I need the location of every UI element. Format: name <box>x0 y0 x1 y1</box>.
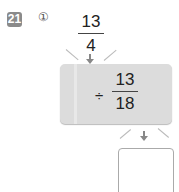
division-operator: ÷ <box>95 87 103 104</box>
operand-fraction: 13 18 <box>112 70 138 113</box>
decor-ray <box>104 50 117 61</box>
input-denominator: 4 <box>86 36 95 55</box>
decor-ray <box>120 129 131 139</box>
fraction-bar <box>78 33 104 34</box>
input-numerator: 13 <box>82 12 101 31</box>
decor-ray <box>66 49 79 60</box>
sub-problem-label: ① <box>38 10 49 24</box>
problem-number-badge: 21 <box>7 12 22 27</box>
operand-denominator: 18 <box>116 94 135 113</box>
decor-ray <box>158 128 169 138</box>
operand-numerator: 13 <box>116 70 135 89</box>
answer-input-box[interactable] <box>118 148 174 192</box>
fraction-bar <box>112 91 138 92</box>
input-fraction: 13 4 <box>78 12 104 55</box>
box-stripe <box>74 64 77 124</box>
